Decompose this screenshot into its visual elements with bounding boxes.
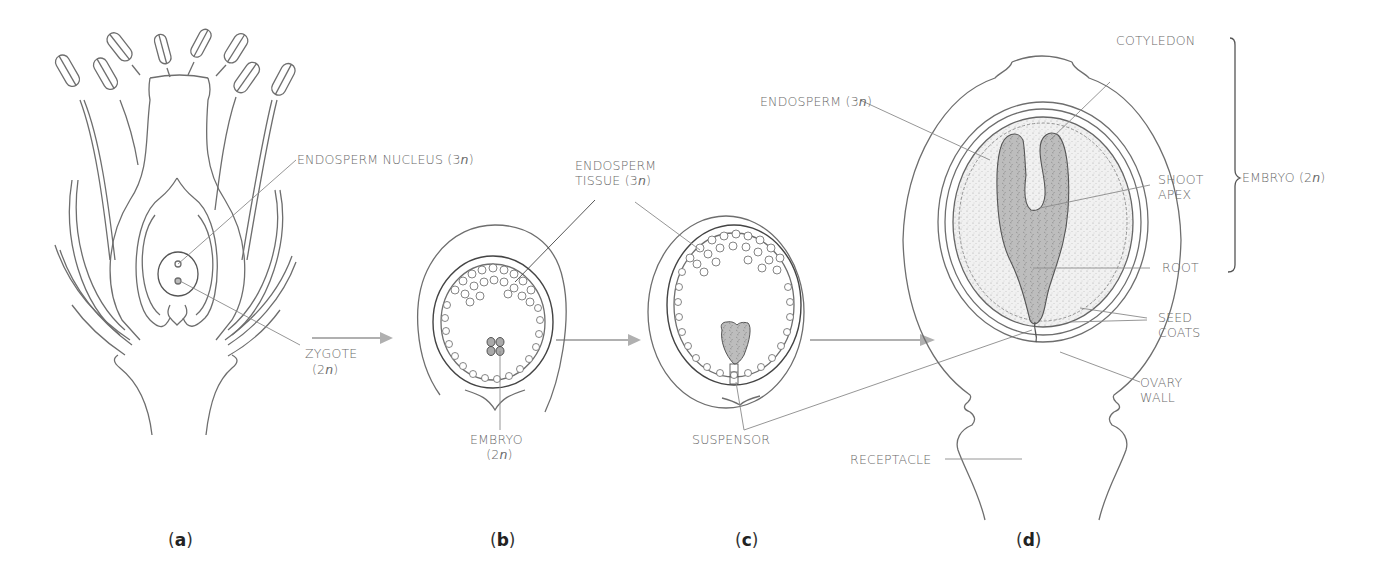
label-endosperm-d: ENDOSPERM (3n) bbox=[760, 94, 872, 109]
panel-label-c: (c) bbox=[735, 530, 758, 550]
embryo-cells bbox=[487, 338, 504, 356]
label-receptacle: RECEPTACLE bbox=[850, 452, 931, 467]
label-endosperm-tissue: ENDOSPERMTISSUE (3n) bbox=[575, 158, 656, 188]
label-suspensor: SUSPENSOR bbox=[692, 432, 770, 447]
label-seed-coats: SEEDCOATS bbox=[1158, 310, 1201, 340]
heart-embryo bbox=[721, 322, 750, 364]
seed-development-diagram bbox=[0, 0, 1386, 580]
label-embryo-b: EMBRYO(2n) bbox=[470, 432, 523, 462]
embryo-sac bbox=[158, 252, 198, 296]
panel-d-fruit bbox=[903, 56, 1181, 520]
label-endosperm-nucleus: ENDOSPERM NUCLEUS (3n) bbox=[297, 152, 474, 167]
embryo-brace bbox=[1228, 38, 1240, 272]
pistil bbox=[110, 75, 245, 340]
panel-label-d: (d) bbox=[1016, 530, 1041, 550]
label-zygote: ZYGOTE bbox=[305, 346, 357, 361]
panel-a-flower bbox=[53, 27, 298, 435]
label-zygote-ploidy: (2n) bbox=[312, 362, 338, 377]
panel-label-a: (a) bbox=[168, 530, 193, 550]
stamens bbox=[53, 27, 298, 260]
label-embryo-d: EMBRYO (2n) bbox=[1242, 170, 1325, 185]
label-shoot-apex: SHOOTAPEX bbox=[1158, 172, 1204, 202]
progression-arrows bbox=[312, 332, 935, 346]
label-root: ROOT bbox=[1162, 260, 1199, 275]
panel-label-b: (b) bbox=[490, 530, 515, 550]
label-ovary-wall: OVARYWALL bbox=[1140, 375, 1182, 405]
panel-c-ovule bbox=[648, 216, 804, 408]
label-cotyledon: COTYLEDON bbox=[1116, 33, 1195, 48]
